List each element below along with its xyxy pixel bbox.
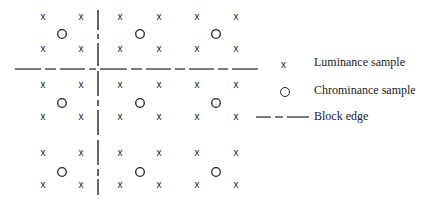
luminance-sample: x <box>234 111 239 122</box>
luminance-sample: x <box>118 43 123 54</box>
luminance-sample: x <box>234 43 239 54</box>
luminance-sample: x <box>234 147 239 158</box>
chrominance-sample <box>136 99 145 108</box>
chrominance-sample <box>136 30 145 39</box>
luminance-sample: x <box>234 11 239 22</box>
luminance-sample: x <box>79 111 84 122</box>
legend-chrominance-label: Chrominance sample <box>314 83 416 98</box>
luminance-sample: x <box>118 111 123 122</box>
luminance-sample: x <box>118 147 123 158</box>
luminance-sample: x <box>195 111 200 122</box>
luminance-sample: x <box>195 79 200 90</box>
legend-luminance-symbol: x <box>281 59 286 70</box>
chrominance-sample <box>58 168 67 177</box>
luminance-sample: x <box>195 43 200 54</box>
luminance-sample: x <box>41 11 46 22</box>
luminance-sample: x <box>234 179 239 190</box>
chrominance-sample <box>212 30 221 39</box>
luminance-sample: x <box>157 111 162 122</box>
luminance-sample: x <box>41 179 46 190</box>
luminance-sample: x <box>79 79 84 90</box>
legend-chrominance-symbol <box>280 87 290 97</box>
luminance-sample: x <box>41 111 46 122</box>
luminance-sample: x <box>157 43 162 54</box>
chrominance-sample <box>58 30 67 39</box>
luminance-sample: x <box>234 79 239 90</box>
luminance-sample: x <box>79 11 84 22</box>
chrominance-sample <box>136 168 145 177</box>
legend-luminance-label: Luminance sample <box>314 55 405 70</box>
luminance-sample: x <box>41 79 46 90</box>
luminance-sample: x <box>157 147 162 158</box>
luminance-sample: x <box>157 79 162 90</box>
chrominance-sample <box>212 99 221 108</box>
luminance-sample: x <box>118 11 123 22</box>
legend-block-edge-label: Block edge <box>314 109 368 124</box>
chrominance-sample <box>58 99 67 108</box>
luminance-sample: x <box>41 147 46 158</box>
luminance-sample: x <box>118 179 123 190</box>
luminance-sample: x <box>195 179 200 190</box>
luminance-sample: x <box>157 11 162 22</box>
luminance-sample: x <box>79 147 84 158</box>
luminance-sample: x <box>118 79 123 90</box>
luminance-sample: x <box>79 179 84 190</box>
luminance-sample: x <box>195 147 200 158</box>
sampling-grid: xxxxxxxxxxxxxxxxxxxxxxxxxxxxxxxxxxxx <box>0 0 432 203</box>
chrominance-sample <box>212 168 221 177</box>
luminance-sample: x <box>195 11 200 22</box>
luminance-sample: x <box>157 179 162 190</box>
luminance-sample: x <box>41 43 46 54</box>
luminance-sample: x <box>79 43 84 54</box>
